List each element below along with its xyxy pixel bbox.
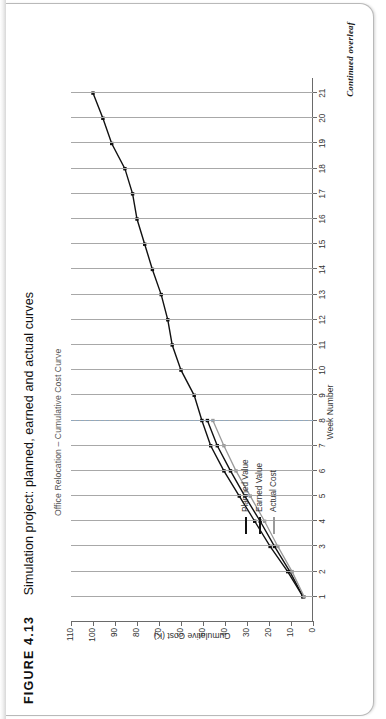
y-tick-label: 0 bbox=[309, 628, 317, 650]
y-tick-label: 90 bbox=[111, 628, 119, 650]
y-tick bbox=[71, 622, 72, 626]
gridline-vertical bbox=[71, 193, 313, 194]
gridline-vertical bbox=[71, 545, 313, 546]
y-tick-label: 100 bbox=[89, 628, 97, 650]
gridline-vertical bbox=[71, 218, 313, 219]
x-tick bbox=[313, 445, 317, 446]
y-tick-label: 20 bbox=[265, 628, 273, 650]
y-tick bbox=[93, 622, 94, 626]
figure-label: FIGURE 4.13 bbox=[22, 616, 36, 704]
x-tick bbox=[313, 420, 317, 421]
chart-title: Office Relocation – Cumulative Cost Curv… bbox=[53, 349, 63, 516]
data-date-line bbox=[71, 420, 313, 421]
y-tick-label: 80 bbox=[133, 628, 141, 650]
x-tick bbox=[313, 243, 317, 244]
x-tick bbox=[313, 218, 317, 219]
legend-item: Planned Value bbox=[241, 459, 250, 534]
y-tick-label: 110 bbox=[67, 628, 75, 650]
x-tick bbox=[313, 92, 317, 93]
x-tick bbox=[313, 319, 317, 320]
x-tick-label: 20 bbox=[319, 109, 327, 127]
gridline-vertical bbox=[71, 117, 313, 118]
book-page: FIGURE 4.13 Simulation project: planned,… bbox=[0, 0, 386, 719]
gridline-vertical bbox=[71, 268, 313, 269]
legend-label: Earned Value bbox=[255, 463, 264, 512]
gridline-vertical bbox=[71, 445, 313, 446]
figure-caption: FIGURE 4.13 Simulation project: planned,… bbox=[19, 44, 39, 704]
y-tick-label: 30 bbox=[243, 628, 251, 650]
x-tick bbox=[313, 268, 317, 269]
gridline-vertical bbox=[71, 369, 313, 370]
legend: Planned ValueEarned ValueActual Cost bbox=[241, 459, 278, 534]
x-tick bbox=[313, 369, 317, 370]
gridline-vertical bbox=[71, 142, 313, 143]
x-tick bbox=[313, 117, 317, 118]
y-tick bbox=[225, 622, 226, 626]
y-tick bbox=[181, 622, 182, 626]
x-tick bbox=[313, 495, 317, 496]
gridline-vertical bbox=[71, 571, 313, 572]
gridline-vertical bbox=[71, 92, 313, 93]
x-tick bbox=[313, 193, 317, 194]
y-tick-label: 70 bbox=[155, 628, 163, 650]
x-axis-label: Week Number bbox=[325, 140, 335, 684]
y-tick bbox=[291, 622, 292, 626]
y-tick-label: 50 bbox=[199, 628, 207, 650]
continued-overleaf-note: Continued overleaf bbox=[345, 22, 355, 97]
x-tick bbox=[313, 344, 317, 345]
series-lines bbox=[71, 78, 313, 622]
x-tick bbox=[313, 142, 317, 143]
gridline-vertical bbox=[71, 319, 313, 320]
page-gutter-shadow bbox=[0, 0, 6, 719]
y-tick bbox=[269, 622, 270, 626]
x-tick-label: 21 bbox=[319, 84, 327, 102]
figure-title: Simulation project: planned, earned and … bbox=[22, 292, 36, 595]
y-axis-label: Cumulative Cost (K) bbox=[154, 631, 231, 641]
legend-label: Actual Cost bbox=[269, 470, 278, 512]
y-tick bbox=[115, 622, 116, 626]
rotated-content: FIGURE 4.13 Simulation project: planned,… bbox=[13, 10, 373, 710]
y-tick-label: 60 bbox=[177, 628, 185, 650]
y-tick-label: 40 bbox=[221, 628, 229, 650]
gridline-vertical bbox=[71, 596, 313, 597]
y-tick bbox=[159, 622, 160, 626]
legend-marker bbox=[273, 517, 275, 534]
legend-item: Actual Cost bbox=[269, 459, 278, 534]
gridline-vertical bbox=[71, 243, 313, 244]
gridline-vertical bbox=[71, 294, 313, 295]
legend-marker bbox=[259, 517, 261, 534]
chart: Office Relocation – Cumulative Cost Curv… bbox=[53, 70, 353, 684]
x-tick bbox=[313, 571, 317, 572]
y-tick bbox=[247, 622, 248, 626]
legend-item: Earned Value bbox=[255, 459, 264, 534]
plot-area: Cumulative Cost (K) 01020304050607080901… bbox=[71, 78, 313, 622]
x-tick bbox=[313, 545, 317, 546]
x-tick bbox=[313, 294, 317, 295]
gridline-vertical bbox=[71, 344, 313, 345]
x-tick bbox=[313, 394, 317, 395]
x-tick bbox=[313, 470, 317, 471]
gridline-vertical bbox=[71, 394, 313, 395]
y-tick-label: 10 bbox=[287, 628, 295, 650]
y-tick bbox=[137, 622, 138, 626]
gridline-vertical bbox=[71, 168, 313, 169]
x-tick bbox=[313, 520, 317, 521]
y-tick bbox=[203, 622, 204, 626]
legend-marker bbox=[245, 517, 247, 534]
x-tick bbox=[313, 596, 317, 597]
y-tick bbox=[313, 622, 314, 626]
legend-label: Planned Value bbox=[241, 459, 250, 512]
x-tick bbox=[313, 168, 317, 169]
